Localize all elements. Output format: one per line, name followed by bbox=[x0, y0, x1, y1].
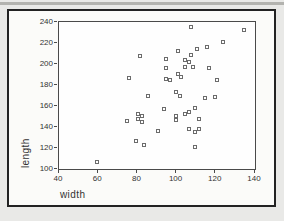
y-tick-mark bbox=[54, 21, 57, 22]
data-point bbox=[187, 60, 191, 64]
data-point bbox=[187, 127, 191, 131]
data-point bbox=[134, 139, 138, 143]
data-point bbox=[146, 94, 150, 98]
data-point bbox=[127, 76, 131, 80]
x-tick-label: 40 bbox=[46, 174, 70, 183]
data-point bbox=[193, 106, 197, 110]
y-tick-label: 100 bbox=[29, 164, 53, 173]
data-point bbox=[215, 78, 219, 82]
data-point bbox=[95, 160, 99, 164]
y-tick-label: 240 bbox=[29, 17, 53, 26]
y-tick-mark bbox=[54, 147, 57, 148]
x-tick-mark bbox=[97, 170, 98, 173]
data-point bbox=[164, 66, 168, 70]
data-point bbox=[193, 145, 197, 149]
data-point bbox=[189, 53, 193, 57]
data-point bbox=[213, 95, 217, 99]
x-tick-label: 60 bbox=[85, 174, 109, 183]
data-point bbox=[183, 65, 187, 69]
data-point bbox=[142, 143, 146, 147]
y-tick-label: 200 bbox=[29, 59, 53, 68]
x-tick-label: 140 bbox=[242, 174, 266, 183]
data-point bbox=[176, 49, 180, 53]
data-point bbox=[197, 127, 201, 131]
data-point bbox=[178, 94, 182, 98]
x-tick-mark bbox=[214, 170, 215, 173]
y-tick-mark bbox=[54, 63, 57, 64]
data-point bbox=[205, 45, 209, 49]
data-point bbox=[187, 110, 191, 114]
x-tick-mark bbox=[58, 170, 59, 173]
y-tick-label: 140 bbox=[29, 122, 53, 131]
x-tick-mark bbox=[175, 170, 176, 173]
data-point bbox=[195, 47, 199, 51]
data-point bbox=[242, 28, 246, 32]
data-point bbox=[191, 65, 195, 69]
data-point bbox=[138, 54, 142, 58]
data-point bbox=[221, 40, 225, 44]
data-point bbox=[162, 107, 166, 111]
y-tick-label: 160 bbox=[29, 101, 53, 110]
figure-canvas: width length 406080100120140100120140160… bbox=[0, 0, 284, 221]
y-tick-mark bbox=[54, 168, 57, 169]
data-point bbox=[174, 118, 178, 122]
data-point bbox=[164, 57, 168, 61]
data-point bbox=[203, 96, 207, 100]
y-tick-label: 220 bbox=[29, 38, 53, 47]
scan-edge-strip bbox=[0, 2, 284, 5]
x-tick-mark bbox=[254, 170, 255, 173]
data-point bbox=[156, 129, 160, 133]
x-tick-label: 100 bbox=[164, 174, 188, 183]
x-tick-mark bbox=[136, 170, 137, 173]
data-point bbox=[197, 117, 201, 121]
y-tick-label: 180 bbox=[29, 80, 53, 89]
data-point bbox=[140, 114, 144, 118]
plot-area bbox=[58, 21, 256, 170]
y-tick-mark bbox=[54, 126, 57, 127]
x-tick-label: 120 bbox=[203, 174, 227, 183]
data-point bbox=[168, 78, 172, 82]
y-tick-mark bbox=[54, 42, 57, 43]
x-axis-label: width bbox=[60, 189, 85, 200]
x-tick-label: 80 bbox=[124, 174, 148, 183]
data-point bbox=[125, 119, 129, 123]
y-tick-mark bbox=[54, 84, 57, 85]
data-point bbox=[207, 66, 211, 70]
data-point bbox=[179, 75, 183, 79]
y-tick-mark bbox=[54, 105, 57, 106]
data-point bbox=[140, 120, 144, 124]
data-point bbox=[189, 25, 193, 29]
y-tick-label: 120 bbox=[29, 143, 53, 152]
